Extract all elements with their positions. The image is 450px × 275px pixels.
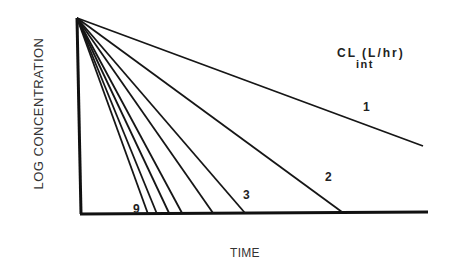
series-line-3	[77, 18, 245, 213]
series-line-5	[77, 18, 182, 213]
series-line-9	[77, 18, 148, 214]
chart-canvas	[0, 0, 450, 275]
series-label-3: 3	[243, 188, 250, 202]
series-label-9: 9	[133, 202, 140, 216]
y-axis	[77, 18, 81, 214]
y-axis-label: LOG CONCENTRATION	[31, 14, 46, 214]
series-label-2: 2	[325, 170, 332, 184]
series-label-1: 1	[363, 100, 370, 114]
x-axis-label: TIME	[230, 246, 260, 260]
legend-subscript: int	[356, 58, 374, 70]
